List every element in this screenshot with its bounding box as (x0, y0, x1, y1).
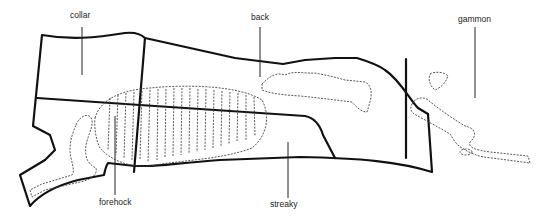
gammon-small-bone (429, 72, 448, 90)
label-gammon: gammon (458, 14, 491, 24)
label-streaky: streaky (270, 199, 297, 209)
label-forehock: forehock (99, 197, 132, 207)
diagram-canvas (0, 0, 557, 224)
label-collar: collar (70, 10, 90, 20)
label-back: back (251, 12, 269, 22)
spine-bone (262, 72, 371, 112)
rib-cage (95, 86, 267, 166)
collar-forehock-divider (37, 98, 335, 158)
